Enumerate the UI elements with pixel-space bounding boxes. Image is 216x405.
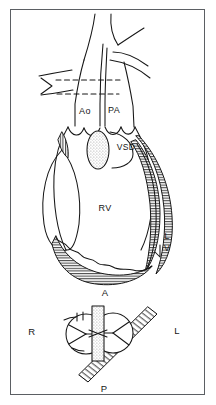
label-right-ventricle: RV <box>98 203 111 213</box>
label-pulmonary-artery: PA <box>108 105 120 115</box>
label-left: L <box>174 325 180 336</box>
label-left-ventricle-line1: L <box>164 231 169 241</box>
label-aorta: Ao <box>79 106 91 116</box>
figure-root: Ao PA VSD RV L V A R L P <box>0 0 216 405</box>
great-vessel-branches <box>84 14 150 78</box>
label-anterior: A <box>102 287 109 298</box>
label-vsd: VSD <box>117 142 136 152</box>
right-shoulder-myocardium <box>58 132 68 158</box>
left-side-oval-chamber <box>43 150 80 251</box>
apex-trabeculation-band <box>52 236 152 285</box>
label-left-ventricle-line2: V <box>164 243 170 253</box>
label-posterior: P <box>101 383 108 394</box>
anatomical-diagram: Ao PA VSD RV L V A R L P <box>0 0 216 405</box>
label-right: R <box>28 326 35 337</box>
vsd-defect-shape <box>87 131 109 169</box>
level-arrow-icon <box>41 78 52 94</box>
